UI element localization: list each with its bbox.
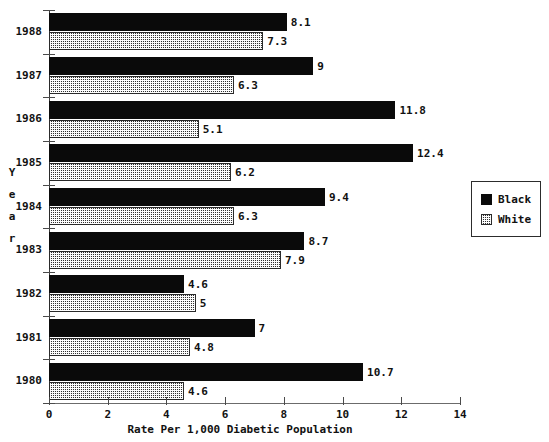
year-group: 12.46.2 bbox=[49, 141, 460, 185]
bar-white-1985 bbox=[49, 163, 231, 181]
year-group: 4.65 bbox=[49, 272, 460, 316]
y-tick-label-1982: 1982 bbox=[0, 288, 42, 299]
bar-value-label: 9.4 bbox=[329, 192, 349, 203]
y-tick-mark bbox=[43, 54, 55, 55]
bar-value-label: 6.2 bbox=[235, 167, 255, 178]
year-group: 96.3 bbox=[49, 54, 460, 98]
bar-white-1984 bbox=[49, 207, 234, 225]
bar-value-label: 8.7 bbox=[308, 236, 328, 247]
bar-value-label: 4.8 bbox=[194, 342, 214, 353]
year-group: 8.17.3 bbox=[49, 10, 460, 54]
bar-value-label: 7 bbox=[259, 323, 266, 334]
x-tick-label-2: 2 bbox=[96, 409, 120, 420]
x-tick-label-4: 4 bbox=[154, 409, 178, 420]
year-group: 11.85.1 bbox=[49, 97, 460, 141]
x-tick-mark bbox=[460, 397, 461, 405]
plot-area: 8.17.396.311.85.112.46.29.46.38.77.94.65… bbox=[49, 10, 460, 403]
bar-white-1983 bbox=[49, 251, 281, 269]
legend-item-white: White bbox=[481, 209, 540, 229]
bar-value-label: 7.9 bbox=[285, 255, 305, 266]
x-tick-mark bbox=[49, 397, 50, 405]
y-tick-label-1981: 1981 bbox=[0, 332, 42, 343]
bar-white-1988 bbox=[49, 32, 263, 50]
bar-black-1980 bbox=[49, 363, 363, 381]
bar-value-label: 8.1 bbox=[291, 17, 311, 28]
bar-value-label: 7.3 bbox=[267, 36, 287, 47]
x-tick-mark bbox=[401, 397, 402, 405]
y-tick-label-1986: 1986 bbox=[0, 113, 42, 124]
bar-value-label: 5.1 bbox=[203, 124, 223, 135]
year-group: 9.46.3 bbox=[49, 185, 460, 229]
y-tick-label-1983: 1983 bbox=[0, 244, 42, 255]
bar-value-label: 5 bbox=[200, 298, 207, 309]
y-tick-mark bbox=[43, 185, 55, 186]
x-tick-mark bbox=[225, 397, 226, 405]
bar-value-label: 12.4 bbox=[417, 148, 444, 159]
y-tick-label-1988: 1988 bbox=[0, 26, 42, 37]
bar-value-label: 4.6 bbox=[188, 386, 208, 397]
y-tick-label-1980: 1980 bbox=[0, 375, 42, 386]
x-axis-title: Rate Per 1,000 Diabetic Population bbox=[0, 424, 480, 436]
bar-black-1985 bbox=[49, 144, 413, 162]
bar-white-1987 bbox=[49, 76, 234, 94]
x-tick-label-14: 14 bbox=[448, 409, 472, 420]
year-group: 8.77.9 bbox=[49, 228, 460, 272]
year-group: 74.8 bbox=[49, 316, 460, 360]
bar-black-1981 bbox=[49, 319, 255, 337]
bar-black-1982 bbox=[49, 275, 184, 293]
y-tick-label-1984: 1984 bbox=[0, 201, 42, 212]
bar-white-1980 bbox=[49, 382, 184, 400]
bar-black-1988 bbox=[49, 13, 287, 31]
bar-black-1984 bbox=[49, 188, 325, 206]
bar-value-label: 10.7 bbox=[367, 367, 394, 378]
bar-value-label: 4.6 bbox=[188, 279, 208, 290]
legend-label-black: Black bbox=[498, 194, 531, 205]
x-tick-mark bbox=[166, 397, 167, 405]
y-tick-mark bbox=[43, 316, 55, 317]
x-tick-label-10: 10 bbox=[331, 409, 355, 420]
x-tick-label-12: 12 bbox=[389, 409, 413, 420]
y-tick-mark bbox=[43, 141, 55, 142]
x-tick-label-0: 0 bbox=[37, 409, 61, 420]
y-tick-mark bbox=[43, 272, 55, 273]
chart-legend: Black White bbox=[471, 181, 541, 237]
bar-value-label: 6.3 bbox=[238, 211, 258, 222]
y-tick-mark bbox=[43, 228, 55, 229]
solid-black-swatch bbox=[481, 194, 492, 205]
y-tick-mark bbox=[43, 359, 55, 360]
x-tick-mark bbox=[343, 397, 344, 405]
x-axis-line bbox=[49, 403, 461, 404]
y-tick-label-1985: 1985 bbox=[0, 157, 42, 168]
bar-black-1983 bbox=[49, 232, 304, 250]
bar-white-1986 bbox=[49, 120, 199, 138]
bar-white-1982 bbox=[49, 294, 196, 312]
x-tick-label-6: 6 bbox=[213, 409, 237, 420]
bar-black-1987 bbox=[49, 57, 313, 75]
stippled-white-swatch bbox=[481, 214, 492, 225]
bar-chart: Y e a r 8.17.396.311.85.112.46.29.46.38.… bbox=[0, 0, 549, 442]
bar-black-1986 bbox=[49, 101, 395, 119]
y-tick-mark bbox=[43, 10, 55, 11]
year-group: 10.74.6 bbox=[49, 359, 460, 403]
bar-value-label: 6.3 bbox=[238, 80, 258, 91]
legend-label-white: White bbox=[498, 214, 531, 225]
legend-item-black: Black bbox=[481, 189, 540, 209]
x-tick-label-8: 8 bbox=[272, 409, 296, 420]
y-tick-mark bbox=[43, 97, 55, 98]
x-tick-mark bbox=[284, 397, 285, 405]
y-tick-label-1987: 1987 bbox=[0, 70, 42, 81]
x-tick-mark bbox=[108, 397, 109, 405]
bar-value-label: 9 bbox=[317, 61, 324, 72]
bar-value-label: 11.8 bbox=[399, 105, 426, 116]
bar-white-1981 bbox=[49, 338, 190, 356]
